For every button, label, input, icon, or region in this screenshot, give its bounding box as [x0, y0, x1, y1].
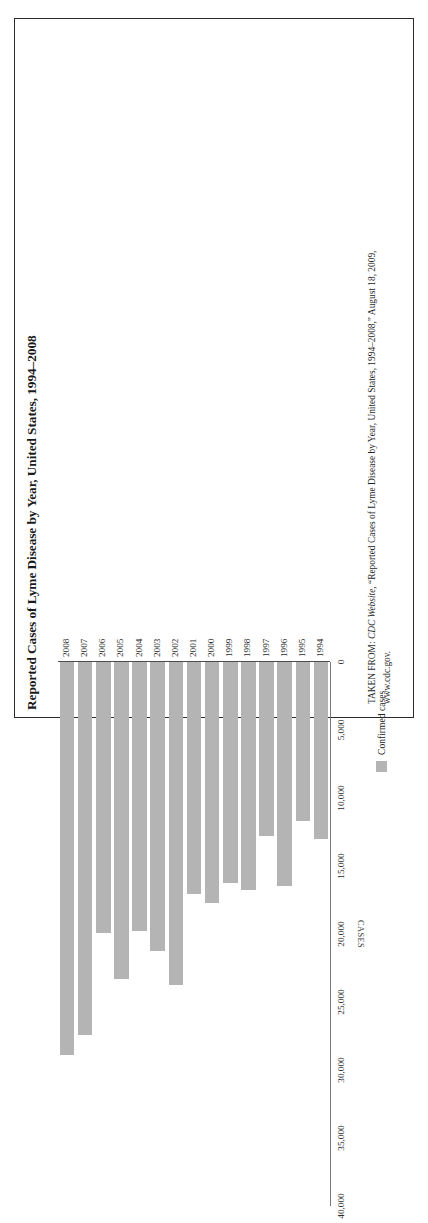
value-tick-40000: 40,000 [336, 1186, 346, 1223]
category-label-2005: 2005 [115, 623, 125, 657]
bar-fill [277, 662, 292, 886]
bar-2000 [205, 662, 220, 903]
bar-fill [259, 662, 274, 836]
value-tick-5000: 5,000 [336, 710, 346, 750]
category-label-1994: 1994 [315, 623, 325, 657]
category-label-2006: 2006 [97, 623, 107, 657]
category-label-1998: 1998 [242, 623, 252, 657]
bar-2005 [114, 662, 129, 979]
category-axis-line [330, 662, 331, 1206]
page-title: Reported Cases of Lyme Disease by Year, … [24, 40, 40, 710]
category-label-2003: 2003 [152, 623, 162, 657]
category-label-2004: 2004 [134, 623, 144, 657]
bar-fill [169, 662, 184, 985]
source-note-rest: , “Reported Cases of Lyme Disease by Yea… [367, 251, 377, 589]
bar-fill [187, 662, 202, 894]
bar-fill [78, 662, 93, 1035]
category-label-2000: 2000 [206, 623, 216, 657]
bar-1994 [314, 662, 329, 839]
legend-swatch-confirmed-cases [376, 761, 387, 772]
bar-fill [114, 662, 129, 979]
bar-1995 [296, 662, 311, 821]
rotated-figure-canvas: Reported Cases of Lyme Disease by Year, … [14, 18, 414, 718]
bar-fill [296, 662, 311, 821]
bar-2002 [169, 662, 184, 985]
value-tick-20000: 20,000 [336, 914, 346, 954]
bar-fill [150, 662, 165, 951]
value-axis-title: CASES [356, 914, 365, 954]
bar-fill [241, 662, 256, 891]
bar-fill [223, 662, 238, 883]
bar-fill [60, 662, 75, 1055]
bar-1997 [259, 662, 274, 836]
category-label-1999: 1999 [224, 623, 234, 657]
category-label-2008: 2008 [61, 623, 71, 657]
bar-2003 [150, 662, 165, 951]
bar-1999 [223, 662, 238, 883]
bar-2008 [60, 662, 75, 1055]
category-label-1996: 1996 [279, 623, 289, 657]
source-note-url: www.cdc.gov. [381, 651, 394, 704]
value-tick-0: 0 [336, 642, 346, 682]
bar-fill [314, 662, 329, 839]
bar-1998 [241, 662, 256, 891]
category-label-1995: 1995 [297, 623, 307, 657]
source-note-line-1: TAKEN FROM: CDC Website, “Reported Cases… [366, 251, 379, 704]
value-tick-25000: 25,000 [336, 982, 346, 1022]
category-label-2002: 2002 [170, 623, 180, 657]
source-note-publication: CDC Website [367, 589, 377, 639]
bar-fill [132, 662, 147, 931]
bar-fill [96, 662, 111, 933]
bar-fill [205, 662, 220, 903]
value-tick-10000: 10,000 [336, 778, 346, 818]
category-label-2001: 2001 [188, 623, 198, 657]
category-label-2007: 2007 [79, 623, 89, 657]
category-label-1997: 1997 [261, 623, 271, 657]
bar-2006 [96, 662, 111, 933]
source-note-prefix: TAKEN FROM: [367, 639, 377, 704]
value-tick-15000: 15,000 [336, 846, 346, 886]
bar-1996 [277, 662, 292, 886]
value-tick-35000: 35,000 [336, 1118, 346, 1158]
bar-2004 [132, 662, 147, 931]
bar-2001 [187, 662, 202, 894]
bar-2007 [78, 662, 93, 1035]
chart-plot-area: 1994199519961997199819992000200120022003… [58, 118, 330, 710]
value-tick-30000: 30,000 [336, 1050, 346, 1090]
